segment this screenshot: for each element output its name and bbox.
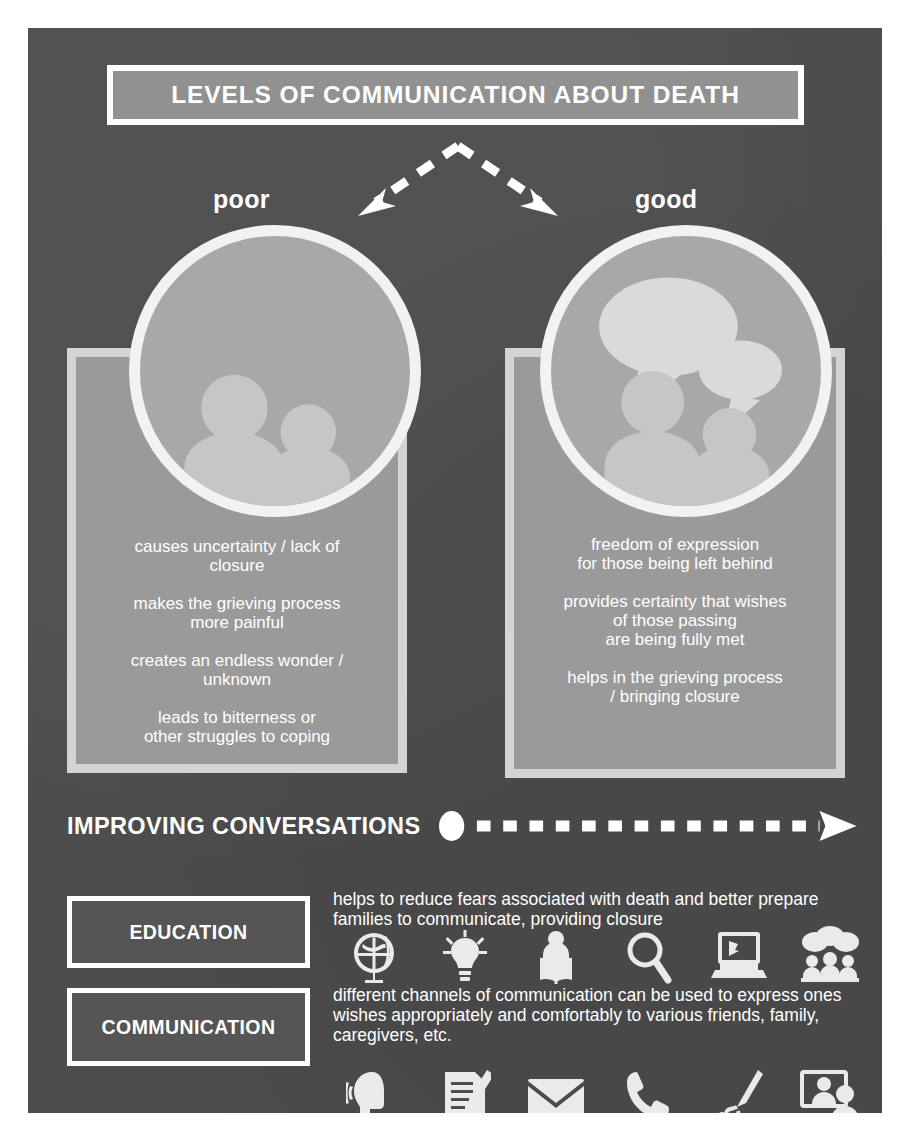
list-item: makes the grieving processmore painful [90,594,384,632]
lightbulb-icon [429,926,501,984]
globe-icon [338,926,410,984]
speaking-head-icon [338,1064,410,1113]
laptop-cursor-icon [703,926,775,984]
tag-education-label: EDUCATION [129,921,247,944]
list-item: leads to bitterness orother struggles to… [90,708,384,746]
poster-title-bar: LEVELS OF COMMUNICATION ABOUT DEATH [107,65,804,125]
list-item: causes uncertainty / lack ofclosure [90,537,384,575]
magnifying-glass-icon [612,926,684,984]
tag-communication-label: COMMUNICATION [102,1016,276,1039]
phone-handset-icon [612,1064,684,1113]
page-title: LEVELS OF COMMUNICATION ABOUT DEATH [171,81,740,109]
education-icon-row [338,926,866,984]
list-item: provides certainty that wishesof those p… [528,592,822,649]
branching-dashed-arrows-icon [278,140,638,230]
list-item: helps in the grieving process/ bringing … [528,668,822,706]
microphone-icon [703,1064,775,1113]
video-call-icon [794,1064,866,1113]
label-poor: poor [213,185,270,214]
communication-icon-row [338,1060,866,1113]
label-good: good [635,185,697,214]
list-item: creates an endless wonder /unknown [90,651,384,689]
panel-poor-points: causes uncertainty / lack ofclosure make… [76,537,398,746]
education-description: helps to reduce fears associated with de… [333,890,868,930]
improving-conversations-row: IMPROVING CONVERSATIONS [67,803,857,849]
tag-communication[interactable]: COMMUNICATION [67,988,310,1066]
two-people-silhouette-icon [129,225,421,517]
improving-conversations-label: IMPROVING CONVERSATIONS [67,813,420,840]
panel-good-points: freedom of expressionfor those being lef… [514,535,836,706]
list-item: freedom of expressionfor those being lef… [528,535,822,573]
communication-description: different channels of communication can … [333,986,868,1046]
two-people-talking-speech-bubbles-icon [540,225,832,517]
tag-education[interactable]: EDUCATION [67,896,310,968]
person-reading-book-icon [520,926,592,984]
group-discussion-icon [794,926,866,984]
dashed-arrow-right-icon [438,811,857,841]
envelope-icon [520,1064,592,1113]
infographic-poster: LEVELS OF COMMUNICATION ABOUT DEATH poor… [28,28,882,1113]
notepad-pencil-icon [429,1064,501,1113]
